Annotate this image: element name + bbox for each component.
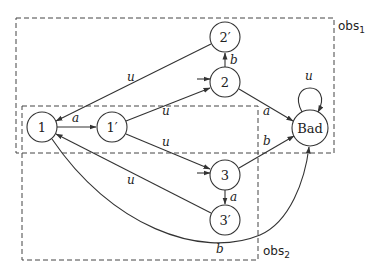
node-2-prime: 2′: [210, 22, 240, 52]
edge-label-1-to-bad: b: [216, 242, 224, 256]
edge-label-3p-to-1: u: [127, 173, 135, 187]
svg-text:Bad: Bad: [297, 121, 323, 136]
node-2: 2: [210, 67, 240, 97]
node-3-prime: 3′: [210, 205, 240, 235]
node-1-prime: 1′: [97, 112, 127, 142]
edge-label-3-to-bad: b: [263, 134, 271, 148]
edge-1-to-bad: [52, 139, 309, 243]
svg-text:1: 1: [38, 120, 46, 135]
edge-label-3-to-3p: a: [230, 190, 237, 204]
edge-label-2-to-bad: a: [263, 104, 270, 118]
edge-label-1p-to-2: u: [162, 104, 170, 118]
obs1-label: obs1: [338, 19, 365, 35]
state-diagram: obs1 obs2 a u u u b a b a u b u 1 1′ 2′: [0, 0, 374, 275]
obs2-label: obs2: [263, 244, 290, 260]
svg-text:2: 2: [221, 75, 229, 90]
svg-text:2′: 2′: [219, 30, 230, 45]
obs1-box: [16, 18, 334, 153]
edge-label-2-to-2p: b: [230, 53, 238, 67]
edge-label-1p-to-3: u: [162, 135, 170, 149]
node-bad: Bad: [292, 110, 328, 146]
svg-text:3: 3: [221, 168, 229, 183]
edge-label-bad-self-loop: u: [305, 69, 313, 83]
edge-bad-self-loop: [298, 88, 321, 112]
svg-text:3′: 3′: [219, 213, 230, 228]
edge-label-2p-to-1: u: [127, 70, 135, 84]
node-3: 3: [210, 160, 240, 190]
svg-text:1′: 1′: [106, 120, 117, 135]
node-1: 1: [27, 112, 57, 142]
